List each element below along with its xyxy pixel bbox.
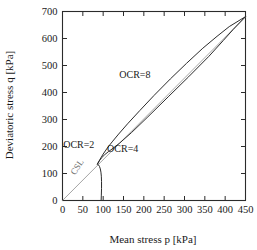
y-tick-label: 0 — [52, 195, 57, 206]
x-tick-label: 450 — [238, 204, 254, 215]
x-tick-label: 50 — [78, 204, 89, 215]
x-axis-tick-labels: 050100150200250300350400450 — [60, 204, 254, 215]
stress-path-chart: 050100150200250300350400450 010020030040… — [0, 0, 257, 250]
y-axis-title: Deviatoric stress q [kPa] — [3, 51, 15, 159]
series-line-csl — [63, 17, 246, 201]
series-line-ocr-2 — [97, 164, 101, 200]
x-tick-label: 0 — [60, 204, 65, 215]
plot-frame — [63, 12, 246, 201]
x-tick-label: 300 — [177, 204, 193, 215]
x-tick-label: 250 — [156, 204, 172, 215]
y-tick-label: 100 — [42, 168, 58, 179]
y-tick-label: 600 — [42, 33, 58, 44]
chart-container: 050100150200250300350400450 010020030040… — [0, 0, 257, 250]
series-annotations: CSLOCR=2OCR=4OCR=8 — [63, 69, 150, 176]
y-tick-label: 500 — [42, 60, 58, 71]
plot-border — [63, 12, 246, 201]
y-axis-tick-labels: 0100200300400500600700 — [42, 6, 58, 206]
x-tick-label: 350 — [197, 204, 213, 215]
annotation-ocr-8: OCR=8 — [119, 69, 150, 80]
x-axis-title: Mean stress p [kPa] — [109, 233, 196, 245]
data-series-group — [63, 17, 246, 201]
y-tick-label: 700 — [42, 6, 58, 17]
x-tick-label: 100 — [95, 204, 111, 215]
y-tick-label: 300 — [42, 114, 58, 125]
x-tick-label: 200 — [136, 204, 152, 215]
y-tick-label: 200 — [42, 141, 58, 152]
annotation-ocr-2: OCR=2 — [63, 139, 94, 150]
y-axis-ticks — [63, 12, 246, 201]
y-tick-label: 400 — [42, 87, 58, 98]
x-tick-label: 400 — [217, 204, 233, 215]
x-axis-ticks — [63, 12, 246, 201]
x-tick-label: 150 — [116, 204, 132, 215]
annotation-csl: CSL — [68, 157, 86, 176]
annotation-ocr-4: OCR=4 — [107, 143, 138, 154]
